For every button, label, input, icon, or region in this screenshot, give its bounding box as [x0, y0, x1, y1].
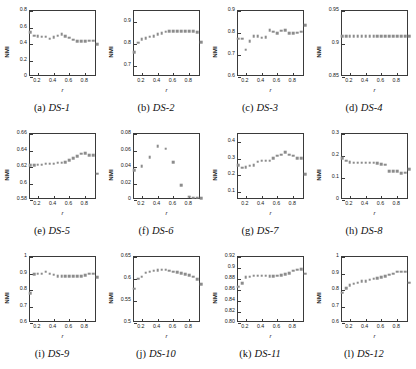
y-tick-label: 0.4 [228, 139, 235, 144]
x-tick-mark [38, 196, 39, 199]
y-tick-mark [342, 274, 345, 275]
data-point-marker [284, 29, 287, 32]
panel-dataset-name: DS-4 [361, 102, 383, 113]
y-tick-labels: 0.60.70.80.9 [215, 10, 236, 76]
data-point-marker [41, 272, 44, 275]
y-tick-label: 0.9 [332, 40, 339, 45]
data-point-marker [356, 161, 359, 164]
y-tick-mark [30, 44, 33, 45]
x-axis-label: r [237, 87, 304, 93]
data-point-marker [396, 35, 399, 38]
y-tick-label: 0.3 [332, 130, 339, 135]
data-point-marker [72, 39, 75, 42]
y-tick-mark [238, 268, 241, 269]
data-point-marker [237, 164, 240, 167]
y-tick-labels: 00.20.40.60.8 [7, 10, 28, 76]
axes-frame [341, 133, 408, 199]
x-axis-label: r [133, 210, 200, 216]
x-tick-labels: 0.20.40.60.8 [237, 201, 304, 210]
data-point-marker [60, 275, 63, 278]
data-point-marker [52, 36, 55, 39]
data-point-marker [400, 35, 403, 38]
chart-panel: NMI00.20.40.60.80.20.40.60.8r(a)DS-1 [0, 2, 104, 125]
data-point-marker [304, 173, 307, 176]
x-tick-label: 0.8 [184, 324, 191, 329]
data-point-marker [72, 275, 75, 278]
data-point-marker [184, 273, 187, 276]
x-tick-mark [85, 73, 86, 76]
data-point-marker [137, 277, 140, 280]
y-tick-label: 0.80 [225, 319, 235, 324]
plot-area: NMI0.850.90.950.20.40.60.8r [312, 2, 416, 102]
axes-frame [237, 10, 304, 76]
data-point-marker [260, 159, 263, 162]
y-tick-mark [134, 134, 137, 135]
axes-frame [29, 133, 96, 199]
data-point-marker [372, 277, 375, 280]
axes-frame [133, 10, 200, 76]
data-point-marker [76, 155, 79, 158]
x-tick-label: 0.2 [137, 324, 144, 329]
y-tick-mark [134, 167, 137, 168]
x-tick-label: 0.2 [33, 78, 40, 83]
chart-panel: NMI0.60.70.80.910.20.40.60.8r(i)DS-9 [0, 248, 104, 369]
y-tick-mark [238, 11, 241, 12]
data-point-marker [292, 269, 295, 272]
y-tick-mark [134, 184, 137, 185]
y-tick-label: 0.9 [228, 7, 235, 12]
plot-area: NMI0.60.70.80.910.20.40.60.8r [0, 248, 104, 348]
axes-frame [29, 256, 96, 322]
data-point-marker [245, 48, 248, 51]
x-tick-mark [381, 73, 382, 76]
data-point-marker [29, 292, 32, 295]
panel-caption: (c)DS-3 [208, 103, 312, 114]
data-point-marker [188, 274, 191, 277]
y-tick-label: 0.62 [17, 163, 27, 168]
x-tick-mark [293, 319, 294, 322]
x-tick-labels: 0.20.40.60.8 [341, 324, 408, 333]
data-point-marker [252, 35, 255, 38]
data-point-marker [260, 274, 263, 277]
x-tick-mark [366, 73, 367, 76]
x-tick-labels: 0.20.40.60.8 [29, 78, 96, 87]
x-tick-mark [54, 319, 55, 322]
x-tick-mark [173, 73, 174, 76]
data-point-marker [404, 270, 407, 273]
data-point-marker [272, 275, 275, 278]
x-tick-label: 0.2 [241, 78, 248, 83]
x-tick-label: 0.4 [361, 201, 368, 206]
y-tick-label: 0.92 [225, 253, 235, 258]
x-tick-label: 0.2 [241, 201, 248, 206]
data-point-marker [400, 172, 403, 175]
panel-caption: (b)DS-2 [104, 103, 208, 114]
panel-letter: (c) [242, 102, 254, 113]
x-tick-mark [173, 196, 174, 199]
data-point-marker [380, 35, 383, 38]
data-point-marker [88, 272, 91, 275]
data-point-marker [249, 276, 252, 279]
plot-area: NMI0.10.20.30.40.20.40.60.8r [208, 125, 312, 225]
y-tick-label: 0.55 [121, 297, 131, 302]
x-axis-label: r [341, 333, 408, 339]
data-point-marker [200, 197, 203, 200]
x-tick-label: 0.6 [377, 201, 384, 206]
data-point-marker [168, 30, 171, 33]
x-tick-mark [350, 196, 351, 199]
y-tick-label: 0.04 [121, 163, 131, 168]
x-tick-label: 0.2 [137, 78, 144, 83]
data-point-marker [368, 35, 371, 38]
data-point-marker [268, 275, 271, 278]
data-point-marker [137, 42, 140, 45]
data-point-marker [33, 164, 36, 167]
x-axis-label: r [341, 210, 408, 216]
data-point-marker [76, 40, 79, 43]
y-tick-mark [238, 159, 241, 160]
panel-caption: (l)DS-12 [312, 349, 416, 360]
y-tick-label: 0.2 [20, 57, 27, 62]
y-tick-label: 0.6 [228, 73, 235, 78]
x-tick-label: 0.8 [80, 324, 87, 329]
panel-dataset-name: DS-1 [49, 102, 71, 113]
x-tick-label: 0.8 [392, 324, 399, 329]
y-tick-label: 0.4 [20, 40, 27, 45]
axes-frame [133, 133, 200, 199]
